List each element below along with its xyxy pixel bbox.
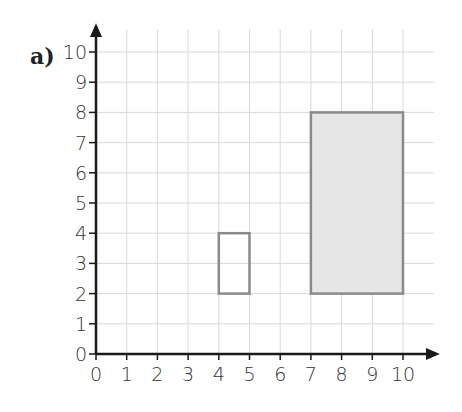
x-tick-label: 2 bbox=[151, 363, 163, 385]
x-tick-label: 4 bbox=[213, 363, 225, 385]
y-tick-label: 6 bbox=[75, 162, 87, 184]
y-tick-label: 4 bbox=[75, 222, 87, 244]
y-tick-label: 0 bbox=[75, 343, 87, 365]
y-tick-label: 3 bbox=[75, 252, 87, 274]
x-axis-arrow-icon bbox=[426, 348, 440, 360]
x-tick-label: 10 bbox=[391, 363, 415, 385]
y-tick-label: 9 bbox=[75, 71, 87, 93]
x-tick-label: 1 bbox=[121, 363, 133, 385]
x-tick-label: 7 bbox=[305, 363, 317, 385]
x-tick-label: 3 bbox=[182, 363, 194, 385]
x-tick-label: 9 bbox=[366, 363, 378, 385]
y-tick-label: 5 bbox=[75, 192, 87, 214]
y-tick-label: 7 bbox=[75, 132, 87, 154]
x-tick-label: 6 bbox=[274, 363, 286, 385]
x-tick-label: 8 bbox=[336, 363, 348, 385]
y-tick-label: 1 bbox=[75, 313, 87, 335]
y-tick-label: 8 bbox=[75, 101, 87, 123]
part-label: a) bbox=[30, 43, 55, 69]
x-tick-label: 5 bbox=[243, 363, 255, 385]
rectangle-shape bbox=[311, 112, 403, 293]
y-axis-arrow-icon bbox=[90, 23, 102, 37]
y-tick-label: 10 bbox=[63, 41, 87, 63]
x-tick-label: 0 bbox=[90, 363, 102, 385]
coordinate-grid: a) 012345678910012345678910 bbox=[0, 0, 462, 412]
y-tick-label: 2 bbox=[75, 283, 87, 305]
